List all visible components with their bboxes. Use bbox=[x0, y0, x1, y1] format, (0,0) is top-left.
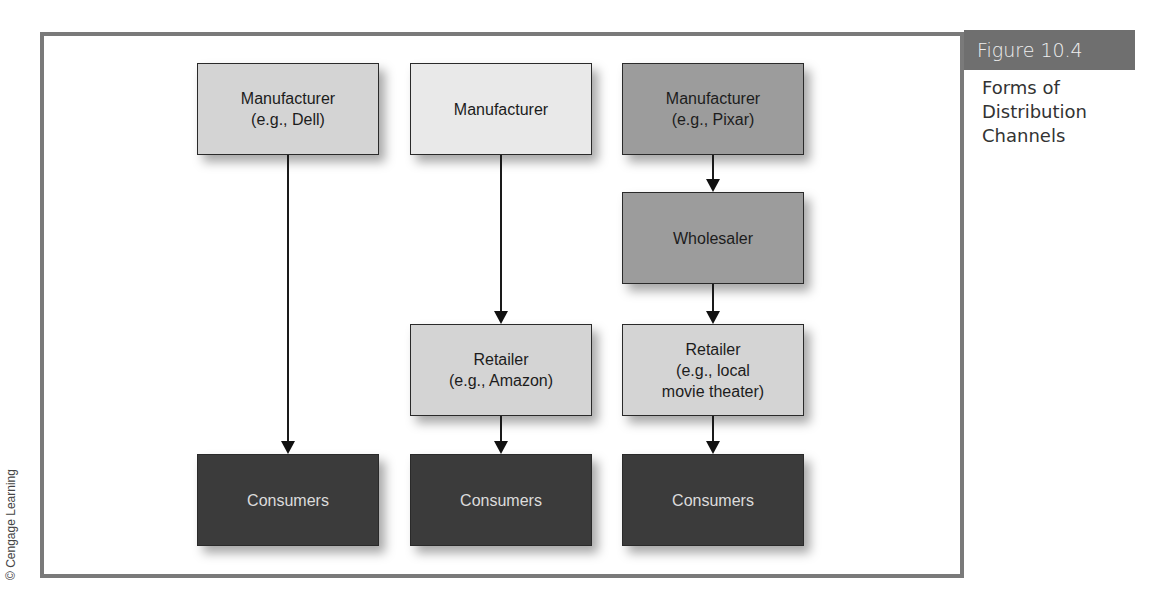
figure-number: Figure 10.4 bbox=[964, 30, 1135, 70]
channel3-consumers-box: Consumers bbox=[622, 454, 804, 546]
arrow-down-icon bbox=[706, 179, 720, 192]
channel2-consumers-box: Consumers bbox=[410, 454, 592, 546]
channel3-manufacturer-box: Manufacturer (e.g., Pixar) bbox=[622, 63, 804, 155]
credit-line: © Cengage Learning bbox=[4, 469, 18, 580]
channel1-connector bbox=[287, 155, 289, 441]
arrow-down-icon bbox=[281, 441, 295, 454]
channel2-connector-1 bbox=[500, 155, 502, 311]
channel1-manufacturer-box: Manufacturer (e.g., Dell) bbox=[197, 63, 379, 155]
arrow-down-icon bbox=[494, 311, 508, 324]
arrow-down-icon bbox=[706, 441, 720, 454]
channel3-retailer-box: Retailer (e.g., local movie theater) bbox=[622, 324, 804, 416]
channel3-wholesaler-box: Wholesaler bbox=[622, 192, 804, 284]
channel1-consumers-box: Consumers bbox=[197, 454, 379, 546]
channel3-connector-3 bbox=[712, 416, 714, 441]
channel2-retailer-box: Retailer (e.g., Amazon) bbox=[410, 324, 592, 416]
channel2-manufacturer-box: Manufacturer bbox=[410, 63, 592, 155]
arrow-down-icon bbox=[494, 441, 508, 454]
channel3-connector-1 bbox=[712, 155, 714, 179]
channel3-connector-2 bbox=[712, 284, 714, 311]
figure-caption: Forms of Distribution Channels bbox=[982, 76, 1152, 148]
arrow-down-icon bbox=[706, 311, 720, 324]
channel2-connector-2 bbox=[500, 416, 502, 441]
